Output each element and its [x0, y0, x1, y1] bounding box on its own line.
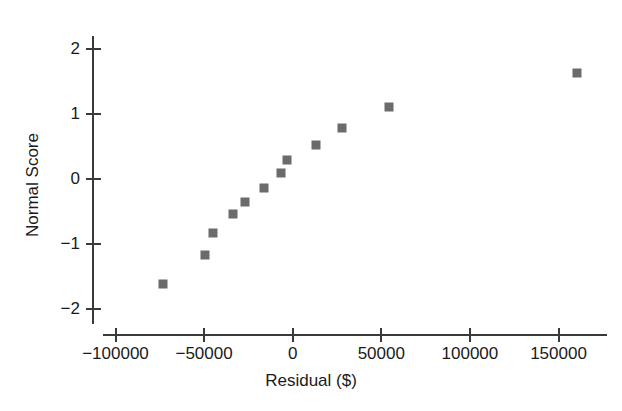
data-point [201, 251, 210, 260]
x-axis-tick-mark [115, 328, 117, 342]
x-axis-tick-label: 50000 [358, 345, 405, 363]
x-axis-tick-label: −100000 [82, 345, 149, 363]
y-axis-tick-label: 1 [42, 105, 80, 122]
data-point [337, 124, 346, 133]
y-axis-tick-mark [86, 243, 101, 245]
data-point [276, 168, 285, 177]
x-axis-tick-label: −50000 [175, 345, 232, 363]
x-axis-tick-mark [380, 328, 382, 342]
normal-probability-plot: 210−1−2 −100000−50000050000100000150000 … [0, 0, 622, 411]
x-axis-line [103, 334, 607, 336]
data-point [208, 228, 217, 237]
x-axis-tick-mark [292, 328, 294, 342]
data-point [312, 141, 321, 150]
x-axis-tick-label: 100000 [442, 345, 499, 363]
y-axis-tick-mark [86, 48, 101, 50]
y-axis-tick-label: −2 [42, 300, 80, 317]
x-axis-title: Residual ($) [0, 372, 622, 390]
data-point [260, 184, 269, 193]
x-axis-tick-label: 150000 [530, 345, 587, 363]
x-axis-tick-mark [203, 328, 205, 342]
data-point [159, 280, 168, 289]
x-axis-tick-mark [558, 328, 560, 342]
x-axis-tick-label: 0 [288, 345, 297, 363]
y-axis-tick-mark [86, 178, 101, 180]
y-axis-line [92, 36, 94, 324]
data-point [385, 102, 394, 111]
y-axis-tick-label: 2 [42, 40, 80, 57]
data-point [573, 69, 582, 78]
x-axis-tick-mark [469, 328, 471, 342]
data-point [241, 197, 250, 206]
y-axis-title: Normal Score [24, 105, 42, 265]
y-axis-tick-mark [86, 308, 101, 310]
data-point [283, 156, 292, 165]
y-axis-tick-label: 0 [42, 170, 80, 187]
data-point [228, 210, 237, 219]
y-axis-tick-mark [86, 113, 101, 115]
y-axis-tick-label: −1 [42, 235, 80, 252]
